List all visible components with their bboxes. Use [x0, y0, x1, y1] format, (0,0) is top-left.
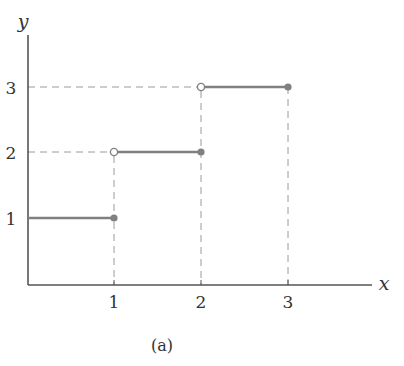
y-tick-label-3: 3 [6, 78, 17, 98]
open-point-1-2 [110, 148, 117, 155]
x-tick-label-2: 2 [196, 292, 207, 312]
closed-point-2-2 [197, 148, 204, 155]
y-axis-label: y [17, 10, 29, 32]
axes [28, 35, 372, 285]
step-function-chart: y x 3 2 1 1 2 3 (a) [0, 0, 404, 366]
y-tick-label-1: 1 [6, 209, 17, 229]
open-point-2-3 [197, 83, 204, 90]
closed-point-1-1 [110, 214, 117, 221]
x-tick-label-3: 3 [283, 292, 294, 312]
guide-lines [28, 87, 288, 285]
x-axis-label: x [379, 272, 390, 294]
figure-caption: (a) [151, 336, 173, 355]
x-tick-label-1: 1 [109, 292, 120, 312]
y-tick-label-2: 2 [6, 143, 17, 163]
closed-point-3-3 [284, 83, 291, 90]
